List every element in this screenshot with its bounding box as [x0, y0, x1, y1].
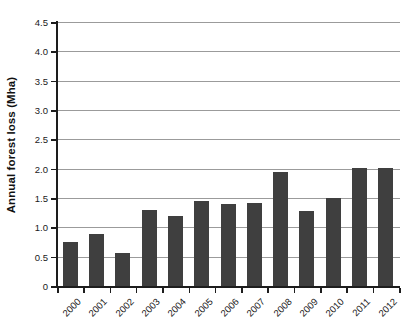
x-axis-line [57, 286, 400, 288]
bar [63, 242, 78, 286]
y-axis-tick-label: 2.0 [8, 163, 48, 174]
y-axis-tick-label: 0.5 [8, 251, 48, 262]
bar [194, 201, 209, 286]
x-axis-tick-mark [399, 288, 401, 293]
bar [247, 203, 262, 286]
bar [378, 168, 393, 287]
y-axis-tick-label: 0 [8, 281, 48, 292]
bar [221, 204, 236, 286]
x-axis-tick-mark [162, 288, 164, 293]
x-axis-tick-label: 2000 [60, 296, 83, 319]
y-axis-title: Annual forest loss (Mha) [0, 0, 22, 290]
y-axis-tick-label: 4.5 [8, 17, 48, 28]
x-axis-tick-mark [320, 288, 322, 293]
bar [352, 168, 367, 287]
x-axis-tick-mark [57, 288, 59, 293]
x-axis-tick-mark [267, 288, 269, 293]
y-axis-tick-label: 1.5 [8, 193, 48, 204]
x-axis-tick-label: 2009 [297, 296, 320, 319]
x-axis-tick-mark [346, 288, 348, 293]
bar-chart-figure: Annual forest loss (Mha) 00.51.01.52.02.… [0, 0, 401, 333]
x-axis-tick-mark [136, 288, 138, 293]
bar [168, 216, 183, 286]
x-axis-tick-mark [215, 288, 217, 293]
x-axis-tick-label: 2007 [244, 296, 267, 319]
x-axis-tick-mark [294, 288, 296, 293]
bar [273, 172, 288, 286]
bar [299, 211, 314, 286]
x-axis-tick-label: 2004 [166, 296, 189, 319]
y-axis-tick-label: 3.5 [8, 75, 48, 86]
x-axis-tick-label: 2011 [350, 296, 372, 318]
x-axis-tick-mark [241, 288, 243, 293]
bar [326, 198, 341, 286]
y-axis-tick-label: 1.0 [8, 222, 48, 233]
x-axis-tick-label: 2005 [192, 296, 215, 319]
y-axis-tick-label: 2.5 [8, 134, 48, 145]
x-axis-tick-label: 2012 [376, 296, 399, 319]
x-axis-tick-label: 2008 [271, 296, 294, 319]
x-axis-tick-label: 2010 [323, 296, 346, 319]
x-axis-tick-mark [189, 288, 191, 293]
bar [115, 253, 130, 286]
y-axis-tick-label: 3.0 [8, 105, 48, 116]
plot-area [57, 22, 399, 286]
x-axis-tick-label: 2002 [113, 296, 136, 319]
x-axis-tick-mark [373, 288, 375, 293]
bar [89, 234, 104, 286]
x-axis-tick-label: 2001 [87, 296, 110, 319]
x-axis-tick-mark [83, 288, 85, 293]
x-axis-tick-label: 2006 [218, 296, 241, 319]
y-axis-tick-label: 4.0 [8, 46, 48, 57]
x-axis-tick-mark [110, 288, 112, 293]
bar [142, 210, 157, 286]
x-axis-tick-label: 2003 [139, 296, 162, 319]
